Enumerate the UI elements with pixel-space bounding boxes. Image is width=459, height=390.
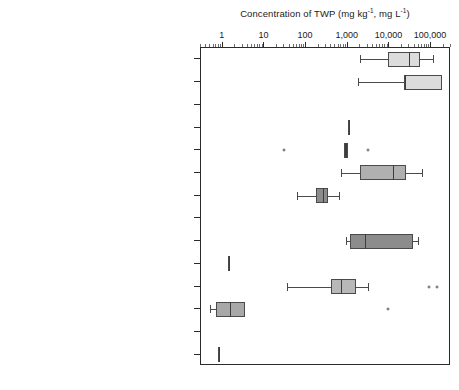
box-plot-box	[316, 188, 328, 203]
x-tick-label: 1,000	[336, 30, 359, 40]
whisker-low	[360, 59, 387, 60]
whisker-cap-high	[339, 192, 340, 200]
x-tick-label: 1	[219, 30, 224, 40]
axis-title-mid: , mg L	[374, 8, 401, 19]
outlier-point	[436, 285, 439, 288]
x-tick-label: 10	[258, 30, 268, 40]
median-line	[393, 165, 394, 180]
axis-title-end: )	[407, 8, 410, 19]
box-plot-box	[388, 52, 421, 67]
median-line	[229, 256, 230, 271]
whisker-low	[358, 82, 403, 83]
whisker-cap-low	[360, 55, 361, 63]
whisker-low	[297, 196, 316, 197]
whisker-high	[420, 59, 433, 60]
whisker-cap-high	[433, 55, 434, 63]
outlier-point	[283, 149, 286, 152]
median-line	[405, 75, 406, 90]
whisker-cap-high	[368, 283, 369, 291]
whisker-cap-low	[358, 78, 359, 86]
median-line	[323, 188, 324, 203]
x-tick-label: 10,000	[375, 30, 403, 40]
median-line	[219, 347, 220, 362]
box-plot-figure: Concentration of TWP (mg kg-1, mg L-1) 1…	[0, 0, 459, 390]
box-plot-box	[404, 75, 442, 90]
outlier-point	[366, 149, 369, 152]
median-line	[349, 120, 350, 135]
box-plot-box	[360, 165, 406, 180]
whisker-low	[287, 287, 331, 288]
plot-area	[200, 47, 450, 365]
median-line	[341, 279, 342, 294]
whisker-cap-high	[418, 237, 419, 245]
whisker-high	[356, 287, 367, 288]
whisker-cap-low	[287, 283, 288, 291]
box-plot-box	[350, 234, 413, 249]
median-line	[346, 143, 347, 158]
chart-axis-title: Concentration of TWP (mg kg-1, mg L-1)	[200, 8, 450, 19]
whisker-cap-low	[341, 169, 342, 177]
whisker-cap-low	[210, 305, 211, 313]
axis-title-main: Concentration of TWP (mg kg	[240, 8, 368, 19]
whisker-high	[328, 196, 339, 197]
outlier-point	[386, 308, 389, 311]
x-tick-label: 100	[298, 30, 313, 40]
whisker-high	[406, 173, 422, 174]
whisker-cap-high	[422, 169, 423, 177]
whisker-cap-low	[297, 192, 298, 200]
x-tick-minor	[450, 44, 451, 47]
whisker-cap-low	[346, 237, 347, 245]
median-line	[230, 302, 231, 317]
x-tick-label: 100,000	[414, 30, 447, 40]
whisker-low	[341, 173, 360, 174]
median-line	[409, 52, 410, 67]
box-plot-box	[331, 279, 356, 294]
outlier-point	[428, 285, 431, 288]
median-line	[365, 234, 366, 249]
